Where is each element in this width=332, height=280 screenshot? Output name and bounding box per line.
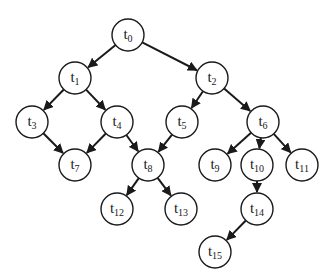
edge-t0-t1 bbox=[88, 45, 115, 67]
node-t7: t7 bbox=[59, 149, 91, 181]
edge-t3-t7 bbox=[43, 133, 63, 153]
edge-t2-t5 bbox=[192, 91, 203, 108]
node-t6: t6 bbox=[247, 106, 279, 138]
node-t11: t11 bbox=[286, 149, 318, 181]
node-t13: t13 bbox=[165, 193, 197, 225]
node-t12: t12 bbox=[101, 193, 133, 225]
node-t0: t0 bbox=[112, 19, 144, 51]
edge-t8-t12 bbox=[127, 178, 139, 195]
edge-t14-t15 bbox=[227, 220, 246, 239]
edge-t4-t8 bbox=[126, 135, 138, 151]
node-t1: t1 bbox=[59, 62, 91, 94]
node-t4: t4 bbox=[101, 106, 133, 138]
edge-t6-t11 bbox=[274, 134, 291, 153]
node-t9: t9 bbox=[199, 149, 231, 181]
edge-t5-t8 bbox=[159, 135, 173, 152]
edge-t2-t6 bbox=[224, 88, 250, 110]
node-t2: t2 bbox=[196, 62, 228, 94]
edge-t0-t2 bbox=[142, 42, 197, 70]
edge-t8-t13 bbox=[158, 178, 171, 196]
edge-t6-t9 bbox=[228, 133, 251, 154]
edge-t1-t3 bbox=[44, 89, 64, 109]
node-t10: t10 bbox=[241, 149, 273, 181]
node-t15: t15 bbox=[199, 236, 231, 268]
nodes-layer: t0t1t2t3t4t5t6t7t8t9t10t11t12t13t14t15 bbox=[16, 19, 318, 268]
node-t14: t14 bbox=[241, 193, 273, 225]
task-dependency-graph: t0t1t2t3t4t5t6t7t8t9t10t11t12t13t14t15 bbox=[0, 0, 332, 280]
edge-t4-t7 bbox=[87, 133, 106, 152]
node-t8: t8 bbox=[132, 149, 164, 181]
edge-t6-t10 bbox=[259, 138, 260, 148]
node-t3: t3 bbox=[16, 106, 48, 138]
node-t5: t5 bbox=[166, 106, 198, 138]
edge-t1-t4 bbox=[86, 90, 105, 110]
